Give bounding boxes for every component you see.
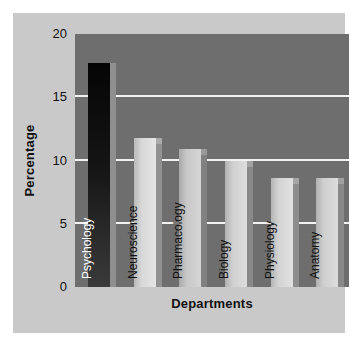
- chart-figure: Percentage 05101520 PsychologyNeuroscien…: [0, 0, 358, 348]
- y-axis-tick-label: 0: [13, 280, 67, 293]
- bar-side-shading: [201, 155, 207, 287]
- bar-category-label: Biology: [218, 240, 230, 279]
- gridline: [75, 159, 349, 161]
- gridline: [75, 95, 349, 97]
- bar-label-container: Psychology: [88, 129, 110, 279]
- bar-top-bevel: [156, 138, 162, 144]
- y-axis-tick-label: 15: [13, 90, 67, 103]
- y-axis-tick-label: 10: [13, 154, 67, 167]
- plot-area: PsychologyNeurosciencePharmacologyBiolog…: [75, 34, 349, 287]
- bar-label-container: Pharmacology: [179, 129, 201, 279]
- bar[interactable]: Physiology: [271, 178, 293, 287]
- y-axis-tick-label: 20: [13, 27, 67, 40]
- gridline: [75, 222, 349, 224]
- x-axis-title: Departments: [75, 296, 349, 311]
- bar-label-container: Neuroscience: [134, 129, 156, 279]
- bar-category-label: Psychology: [81, 218, 93, 279]
- bar-category-label: Neuroscience: [127, 206, 139, 279]
- bar-top-bevel: [338, 178, 344, 184]
- chart-panel: Percentage 05101520 PsychologyNeuroscien…: [13, 13, 345, 333]
- bar[interactable]: Neuroscience: [134, 138, 156, 287]
- bar-label-container: Physiology: [271, 129, 293, 279]
- bar-side-shading: [247, 167, 253, 288]
- bar-label-container: Anatomy: [316, 129, 338, 279]
- bar-side-shading: [156, 144, 162, 287]
- bar-category-label: Physiology: [264, 221, 276, 279]
- bar-side-shading: [338, 184, 344, 287]
- bar-top-bevel: [110, 63, 116, 69]
- bar[interactable]: Biology: [225, 161, 247, 288]
- bar-category-label: Pharmacology: [172, 202, 184, 279]
- bar-top-bevel: [201, 149, 207, 155]
- bar[interactable]: Psychology: [88, 63, 110, 287]
- bar-top-bevel: [293, 178, 299, 184]
- bar-side-shading: [110, 69, 116, 287]
- bar[interactable]: Pharmacology: [179, 149, 201, 287]
- bar-top-bevel: [247, 161, 253, 167]
- bar[interactable]: Anatomy: [316, 178, 338, 287]
- bar-category-label: Anatomy: [309, 232, 321, 279]
- bar-label-container: Biology: [225, 129, 247, 279]
- y-axis-tick-label: 5: [13, 217, 67, 230]
- bar-side-shading: [293, 184, 299, 287]
